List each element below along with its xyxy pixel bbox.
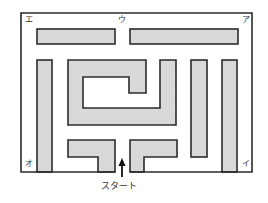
wall-spiral (68, 60, 176, 125)
wall-right-outer-vertical (222, 60, 237, 172)
label-i: イ (242, 160, 250, 168)
wall-bottom-right-block (130, 140, 177, 172)
label-a: ア (242, 16, 250, 24)
wall-left-vertical (37, 60, 52, 172)
maze-diagram (0, 0, 268, 203)
wall-top-right-bar (130, 29, 238, 44)
wall-bottom-left-block (68, 140, 115, 172)
label-o: オ (25, 160, 33, 168)
wall-top-left-bar (37, 29, 115, 44)
start-label: スタート (101, 182, 137, 191)
label-e: エ (25, 16, 33, 24)
label-u: ウ (118, 16, 126, 24)
start-arrow-icon (119, 158, 126, 177)
wall-right-inner-vertical (191, 60, 207, 157)
